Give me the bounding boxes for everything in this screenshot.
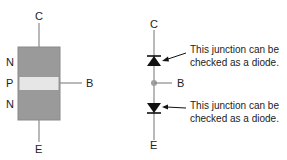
top-note-line1: This junction can be (190, 44, 279, 55)
bottom-diode-triangle-icon (147, 103, 161, 113)
top-note-line2: checked as a diode. (190, 57, 279, 68)
bottom-arrowhead-icon (162, 105, 168, 110)
transistor-diagram: C B E N P N C B E This junction can be c… (0, 0, 287, 160)
emitter-label-right: E (150, 139, 157, 151)
p-layer-label: P (6, 77, 13, 89)
n-layer-label-top: N (6, 56, 14, 68)
bottom-note-line1: This junction can be (190, 100, 279, 111)
top-arrowhead-icon (162, 57, 169, 62)
p-region-stripe (20, 77, 59, 90)
npn-block-diagram (18, 23, 82, 142)
base-label-left: B (86, 77, 93, 89)
bottom-annotation-arrow (166, 107, 186, 108)
base-label-right: B (177, 77, 184, 89)
collector-label-left: C (35, 10, 43, 22)
top-diode-triangle-icon (147, 56, 161, 66)
n-layer-label-bottom: N (6, 98, 14, 110)
bottom-note-line2: checked as a diode. (190, 113, 279, 124)
collector-label-right: C (150, 18, 158, 30)
emitter-label-left: E (35, 143, 42, 155)
